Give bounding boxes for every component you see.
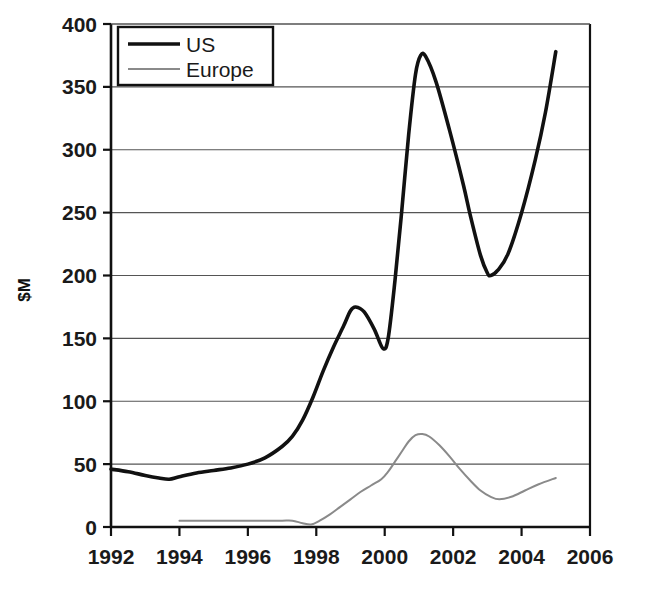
data-series xyxy=(111,52,556,525)
y-tick-label: 0 xyxy=(85,516,97,539)
legend-label-europe: Europe xyxy=(186,58,254,81)
chart-page: 050100150200250300350400 199219941996199… xyxy=(0,0,645,598)
chart-legend: USEurope xyxy=(118,27,273,85)
series-line-us xyxy=(111,52,556,480)
series-line-europe xyxy=(179,434,555,525)
x-tick-label: 1996 xyxy=(224,545,271,568)
grid-lines xyxy=(111,24,590,464)
y-tick-label: 50 xyxy=(74,453,97,476)
y-axis-title-text: $M xyxy=(15,278,34,302)
y-tick-label: 250 xyxy=(62,201,97,224)
x-axis-ticks xyxy=(111,527,590,536)
y-tick-label: 150 xyxy=(62,327,97,350)
x-tick-label: 2006 xyxy=(567,545,614,568)
x-tick-label: 1994 xyxy=(156,545,203,568)
y-tick-label: 350 xyxy=(62,75,97,98)
legend-label-us: US xyxy=(186,33,215,56)
y-tick-label: 400 xyxy=(62,13,97,36)
y-tick-label: 300 xyxy=(62,138,97,161)
y-axis-title: $M xyxy=(15,278,34,302)
y-tick-label: 100 xyxy=(62,390,97,413)
x-tick-label: 2004 xyxy=(498,545,545,568)
x-tick-label: 2002 xyxy=(430,545,477,568)
y-tick-label: 200 xyxy=(62,264,97,287)
x-tick-label: 1992 xyxy=(88,545,135,568)
x-axis-tick-labels: 19921994199619982000200220042006 xyxy=(88,545,614,568)
y-axis-tick-labels: 050100150200250300350400 xyxy=(62,13,97,539)
line-chart: 050100150200250300350400 199219941996199… xyxy=(0,0,645,598)
x-tick-label: 1998 xyxy=(293,545,340,568)
x-tick-label: 2000 xyxy=(361,545,408,568)
